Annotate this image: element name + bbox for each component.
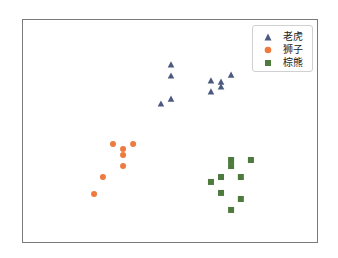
data-point — [120, 146, 126, 152]
data-point — [218, 174, 224, 180]
legend-marker-shape — [265, 47, 272, 54]
square-marker-icon — [263, 58, 273, 68]
legend-label: 老虎 — [283, 30, 303, 44]
figure: 老虎 狮子 棕熊 — [0, 0, 338, 258]
data-point — [228, 163, 234, 169]
legend-item-lion: 狮子 — [253, 43, 312, 57]
legend-item-bear: 棕熊 — [253, 56, 312, 70]
data-point — [158, 100, 165, 106]
legend-label: 狮子 — [283, 43, 303, 57]
data-point — [91, 191, 97, 197]
data-point — [110, 141, 116, 147]
data-point — [248, 157, 254, 163]
data-point — [168, 72, 175, 78]
data-point — [238, 196, 244, 202]
data-point — [100, 174, 106, 180]
data-point — [218, 190, 224, 196]
legend-marker-shape — [265, 60, 271, 66]
data-point — [208, 77, 215, 83]
data-point — [228, 72, 235, 78]
data-point — [238, 174, 244, 180]
circle-marker-icon — [263, 45, 273, 55]
triangle-marker-icon — [263, 32, 273, 42]
legend-label: 棕熊 — [283, 56, 303, 70]
legend-marker-shape — [265, 34, 272, 41]
data-point — [120, 163, 126, 169]
data-point — [228, 157, 234, 163]
data-point — [208, 88, 215, 94]
legend: 老虎 狮子 棕熊 — [252, 25, 313, 72]
data-point — [130, 141, 136, 147]
data-point — [120, 152, 126, 158]
data-point — [168, 61, 175, 67]
legend-item-tiger: 老虎 — [253, 30, 312, 44]
data-point — [228, 207, 234, 213]
data-point — [168, 95, 175, 101]
data-point — [208, 179, 214, 185]
